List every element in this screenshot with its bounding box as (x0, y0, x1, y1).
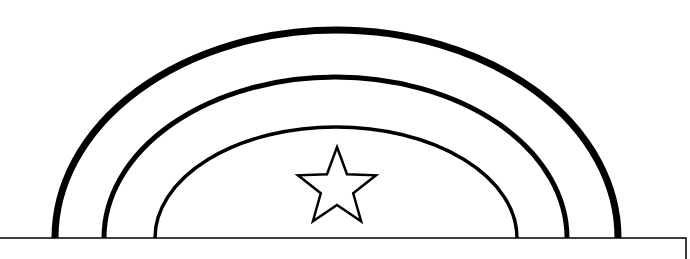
star-icon (298, 147, 376, 221)
rainbow-drawing (0, 0, 690, 259)
star-outline (298, 147, 376, 221)
baseline (0, 238, 686, 259)
coloring-page-canvas: Rainbow with star coloring page (0, 0, 690, 259)
ground-line (0, 238, 686, 259)
